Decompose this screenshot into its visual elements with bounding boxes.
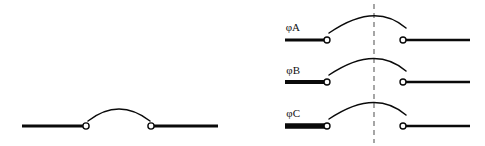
phase-arc-1 [329,16,406,33]
phase-right-terminal-3 [400,123,406,129]
phase-left-terminal-3 [324,123,330,129]
phase-right-terminal-1 [400,37,406,43]
phase-label-1: φA [286,21,300,33]
phase-arc-3 [329,102,406,119]
phase-right-terminal-2 [400,79,406,85]
left-diagram-arc [88,109,150,121]
phase-label-2: φB [286,64,300,76]
left-diagram-left-terminal [83,123,89,129]
left-single-pole-group [22,109,218,129]
left-diagram-right-terminal [148,123,154,129]
phase-row-phiA: φA [285,16,470,43]
phase-rows: φAφBφC [285,16,470,129]
phase-arc-2 [329,58,406,75]
phase-row-phiC: φC [285,102,470,129]
phase-left-terminal-2 [324,79,330,85]
switch-contact-svg: φAφBφC [0,0,485,146]
phase-row-phiB: φB [285,58,470,85]
phase-left-terminal-1 [324,37,330,43]
right-three-phase-group: φAφBφC [285,4,470,143]
phase-label-3: φC [286,107,300,119]
diagram-canvas: φAφBφC [0,0,485,146]
